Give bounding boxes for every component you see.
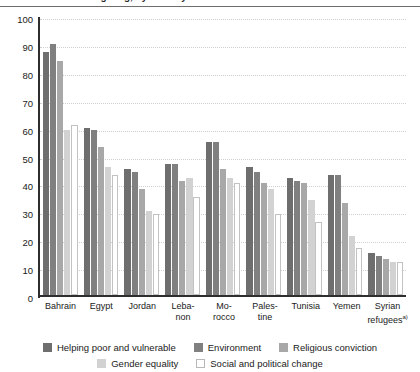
bar-group bbox=[365, 16, 406, 295]
bar-group bbox=[243, 16, 284, 295]
y-tick-label: 90 bbox=[22, 41, 33, 52]
bar[interactable] bbox=[91, 130, 97, 295]
bar[interactable] bbox=[397, 262, 403, 295]
y-tick-label: 40 bbox=[22, 181, 33, 192]
legend-label: Gender equality bbox=[111, 358, 178, 369]
chart-plot-area: 0102030405060708090100 bbox=[38, 17, 406, 297]
bar-group bbox=[40, 16, 81, 295]
legend-item[interactable]: Gender equality bbox=[97, 358, 178, 369]
bar[interactable] bbox=[193, 197, 199, 295]
bar[interactable] bbox=[112, 175, 118, 295]
bar-group bbox=[121, 16, 162, 295]
bar-groups bbox=[40, 16, 406, 295]
chart-legend: Helping poor and vulnerableEnvironmentRe… bbox=[0, 339, 420, 371]
bar[interactable] bbox=[50, 44, 56, 295]
x-tick-label: Syrianrefugeesa) bbox=[367, 301, 408, 335]
y-tick-label: 10 bbox=[22, 265, 33, 276]
x-tick-label: Jordan bbox=[122, 301, 163, 335]
bar[interactable] bbox=[186, 178, 192, 295]
legend-row-2: Gender equalitySocial and political chan… bbox=[0, 355, 420, 371]
bar[interactable] bbox=[390, 262, 396, 295]
bar[interactable] bbox=[139, 189, 145, 295]
legend-swatch bbox=[97, 359, 106, 368]
bar-group bbox=[162, 16, 203, 295]
bar[interactable] bbox=[275, 214, 281, 295]
bar[interactable] bbox=[234, 183, 240, 295]
legend-swatch bbox=[43, 343, 52, 352]
legend-swatch bbox=[279, 343, 288, 352]
y-tick-label: 80 bbox=[22, 69, 33, 80]
bar[interactable] bbox=[98, 147, 104, 295]
bar[interactable] bbox=[246, 167, 252, 295]
y-tick-label: 70 bbox=[22, 97, 33, 108]
x-tick-label: Pales-tine bbox=[244, 301, 285, 335]
bar-group bbox=[284, 16, 325, 295]
bar[interactable] bbox=[64, 130, 70, 295]
bar[interactable] bbox=[254, 172, 260, 295]
y-tick-label: 0 bbox=[28, 293, 33, 304]
bar[interactable] bbox=[179, 181, 185, 295]
bar[interactable] bbox=[349, 236, 355, 295]
bar[interactable] bbox=[213, 142, 219, 295]
y-tick-label: 100 bbox=[17, 14, 33, 25]
x-tick-label: Mo-rocco bbox=[204, 301, 245, 335]
y-tick-label: 30 bbox=[22, 209, 33, 220]
legend-item[interactable]: Helping poor and vulnerable bbox=[43, 342, 176, 353]
x-tick-label: Egypt bbox=[81, 301, 122, 335]
bar[interactable] bbox=[261, 183, 267, 295]
bar-group bbox=[325, 16, 366, 295]
x-axis-line bbox=[38, 295, 406, 297]
legend-item[interactable]: Religious conviction bbox=[279, 342, 377, 353]
y-tick-label: 20 bbox=[22, 237, 33, 248]
legend-item[interactable]: Social and political change bbox=[196, 358, 323, 369]
bar[interactable] bbox=[301, 183, 307, 295]
title-divider bbox=[0, 6, 420, 7]
x-tick-label: Yemen bbox=[326, 301, 367, 335]
y-tick-label: 60 bbox=[22, 125, 33, 136]
bar[interactable] bbox=[84, 128, 90, 295]
bar[interactable] bbox=[57, 61, 63, 295]
y-tick-label: 50 bbox=[22, 153, 33, 164]
bar[interactable] bbox=[220, 169, 226, 295]
bar[interactable] bbox=[105, 167, 111, 295]
bar[interactable] bbox=[227, 178, 233, 295]
bar[interactable] bbox=[71, 125, 77, 295]
legend-label: Environment bbox=[208, 342, 261, 353]
legend-label: Helping poor and vulnerable bbox=[57, 342, 176, 353]
bar[interactable] bbox=[383, 259, 389, 295]
bar[interactable] bbox=[268, 189, 274, 295]
bar[interactable] bbox=[172, 164, 178, 295]
bar[interactable] bbox=[376, 256, 382, 295]
x-tick-label: Bahrain bbox=[40, 301, 81, 335]
legend-item[interactable]: Environment bbox=[194, 342, 261, 353]
bar[interactable] bbox=[146, 211, 152, 295]
legend-label: Social and political change bbox=[210, 358, 323, 369]
bar[interactable] bbox=[368, 253, 374, 295]
x-tick-label: Tunisia bbox=[285, 301, 326, 335]
bar[interactable] bbox=[165, 164, 171, 295]
bar[interactable] bbox=[308, 200, 314, 295]
bar-group bbox=[203, 16, 244, 295]
footnote-marker: a) bbox=[402, 314, 407, 320]
bar[interactable] bbox=[356, 248, 362, 295]
bar[interactable] bbox=[153, 214, 159, 295]
legend-row-1: Helping poor and vulnerableEnvironmentRe… bbox=[0, 339, 420, 355]
bar[interactable] bbox=[43, 52, 49, 295]
page-title: Reasons for giving, by country bbox=[40, 0, 187, 2]
bar[interactable] bbox=[335, 175, 341, 295]
bar[interactable] bbox=[287, 178, 293, 295]
bar[interactable] bbox=[132, 172, 138, 295]
legend-swatch bbox=[196, 359, 205, 368]
bar[interactable] bbox=[294, 181, 300, 295]
x-axis-labels: BahrainEgyptJordanLeba-nonMo-roccoPales-… bbox=[40, 301, 408, 335]
legend-label: Religious conviction bbox=[293, 342, 377, 353]
bar[interactable] bbox=[206, 142, 212, 295]
bar-group bbox=[81, 16, 122, 295]
bar[interactable] bbox=[124, 169, 130, 295]
legend-swatch bbox=[194, 343, 203, 352]
bar[interactable] bbox=[342, 203, 348, 295]
bar[interactable] bbox=[328, 175, 334, 295]
x-tick-label: Leba-non bbox=[163, 301, 204, 335]
bar[interactable] bbox=[315, 222, 321, 295]
